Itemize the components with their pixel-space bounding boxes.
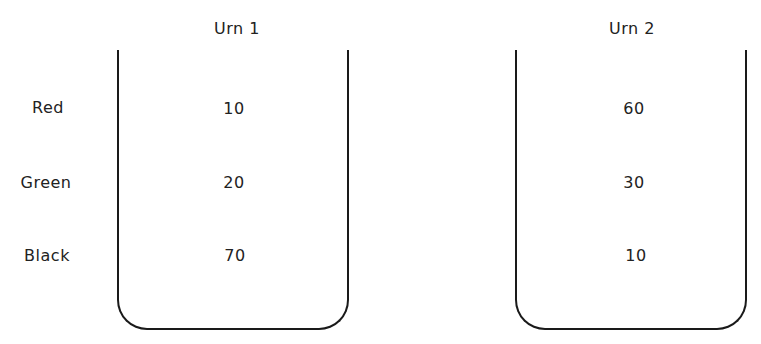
urn-2-title: Urn 2 [609,21,655,37]
row-label-green: Green [21,175,72,191]
urn-1-red-count: 10 [223,101,244,117]
urn-2-green-count: 30 [623,175,644,191]
urn-2-red-count: 60 [623,101,644,117]
urn-2-black-count: 10 [625,248,646,264]
urn-1-title: Urn 1 [214,21,260,37]
row-label-red: Red [32,100,64,116]
urn-1-green-count: 20 [223,175,244,191]
urn-1-black-count: 70 [224,248,245,264]
row-label-black: Black [24,248,70,264]
